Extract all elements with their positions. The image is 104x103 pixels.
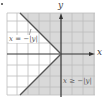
inequality-label: x ≥ −|y|: [63, 77, 92, 85]
x-axis-label: x: [97, 47, 102, 57]
corner-mark: [1, 3, 3, 5]
boundary-label: x = −|y|: [9, 35, 38, 43]
y-axis-label: y: [58, 0, 63, 10]
inequality-graph: y x x = −|y| x ≥ −|y|: [0, 0, 104, 103]
